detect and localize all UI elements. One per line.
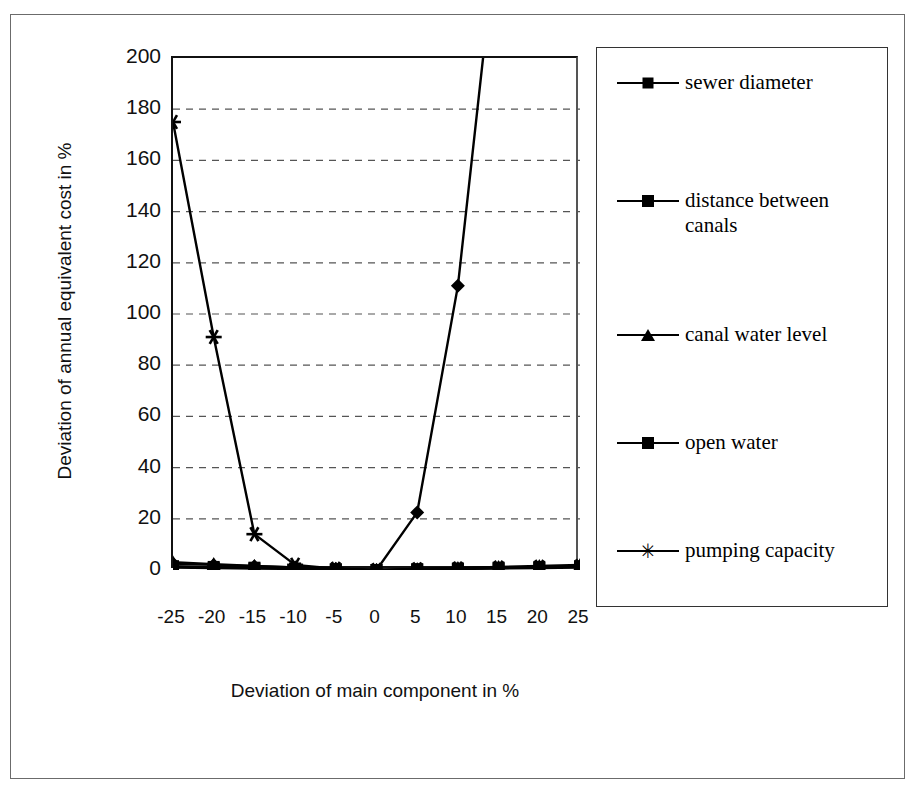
legend-label: distance between canals — [685, 188, 875, 238]
legend-label: pumping capacity — [685, 538, 835, 563]
x-tick-label: 25 — [548, 606, 608, 628]
legend-item-pumping-capacity[interactable]: ✳pumping capacity — [617, 538, 875, 563]
legend-label: open water — [685, 430, 778, 455]
y-tick-label: 20 — [105, 506, 161, 527]
legend-label: sewer diameter — [685, 70, 813, 95]
legend-marker-diamond-icon — [617, 72, 679, 94]
star-marker-icon: ✳ — [640, 541, 657, 561]
legend-marker-triangle-icon — [617, 324, 679, 346]
y-axis-tick-labels: 020406080100120140160180200 — [103, 56, 161, 568]
legend-item-distance-between-canals[interactable]: distance between canals — [617, 188, 875, 238]
y-tick-label: 40 — [105, 455, 161, 476]
plot-svg — [173, 58, 580, 570]
y-tick-label: 140 — [105, 199, 161, 220]
x-axis-tick-labels: -25-20-15-10-50510152025 — [171, 606, 578, 632]
legend-marker-star-icon: ✳ — [617, 540, 679, 562]
y-tick-label: 100 — [105, 301, 161, 322]
y-tick-label: 200 — [105, 45, 161, 66]
legend-item-sewer-diameter[interactable]: sewer diameter — [617, 70, 875, 95]
y-tick-label: 160 — [105, 147, 161, 168]
legend-marker-square-icon — [617, 432, 679, 454]
y-axis-title: Deviation of annual equivalent cost in % — [54, 71, 76, 551]
legend-item-open-water[interactable]: open water — [617, 430, 875, 455]
x-axis-title: Deviation of main component in % — [171, 680, 579, 702]
y-tick-label: 80 — [105, 352, 161, 373]
square-marker-icon — [642, 195, 654, 207]
legend-entries: sewer diameterdistance between canalscan… — [617, 70, 875, 590]
y-tick-label: 60 — [105, 403, 161, 424]
figure: Deviation of annual equivalent cost in %… — [0, 0, 917, 794]
legend-label: canal water level — [685, 322, 827, 347]
legend: sewer diameterdistance between canalscan… — [596, 47, 888, 607]
triangle-marker-icon — [641, 329, 655, 341]
y-tick-label: 180 — [105, 96, 161, 117]
legend-item-canal-water-level[interactable]: canal water level — [617, 322, 875, 347]
plot-area — [171, 56, 578, 568]
diamond-marker-icon — [643, 78, 654, 89]
legend-marker-square-icon — [617, 190, 679, 212]
square-marker-icon — [642, 437, 654, 449]
y-tick-label: 120 — [105, 250, 161, 271]
y-tick-label: 0 — [105, 557, 161, 578]
